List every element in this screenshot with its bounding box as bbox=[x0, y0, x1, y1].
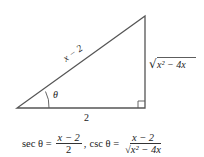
right-angle-marker bbox=[138, 101, 145, 108]
sec-lhs: sec θ = bbox=[22, 138, 52, 149]
csc-radicand: x² − 4x bbox=[131, 143, 161, 155]
formula-line: sec θ = x − 2 2 , csc θ = x − 2 √x² − 4x bbox=[22, 132, 165, 155]
hypotenuse-label: x − 2 bbox=[60, 42, 84, 64]
angle-label: θ bbox=[53, 89, 58, 100]
csc-fraction: x − 2 √x² − 4x bbox=[123, 132, 163, 155]
right-triangle bbox=[17, 16, 145, 108]
adjacent-label: 2 bbox=[84, 112, 89, 123]
opposite-label: x² − 4x bbox=[156, 59, 186, 70]
csc-denominator: √x² − 4x bbox=[123, 144, 163, 155]
sqrt-symbol: √ bbox=[149, 57, 157, 71]
sec-numerator: x − 2 bbox=[56, 132, 82, 144]
sec-fraction: x − 2 2 bbox=[56, 132, 82, 155]
separator: , bbox=[84, 138, 87, 149]
angle-arc bbox=[46, 92, 50, 109]
sec-denominator: 2 bbox=[64, 144, 73, 155]
sqrt-symbol: √ bbox=[125, 144, 131, 155]
csc-lhs: csc θ = bbox=[89, 138, 119, 149]
